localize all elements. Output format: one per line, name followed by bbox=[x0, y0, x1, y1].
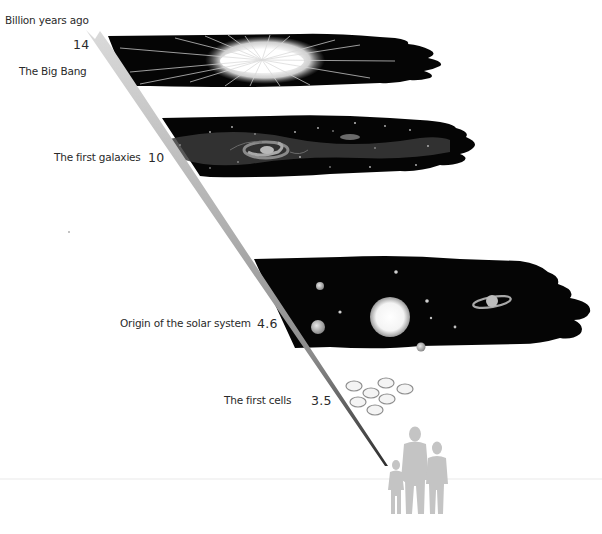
family-figures bbox=[388, 427, 448, 515]
event-label-first-galaxies: The first galaxies bbox=[54, 151, 141, 163]
cells-scene bbox=[346, 378, 413, 415]
timeline-illustration bbox=[0, 0, 602, 534]
event-value-solar-system: 4.6 bbox=[257, 316, 278, 331]
stray-dot bbox=[68, 231, 70, 233]
galaxies-scene bbox=[162, 115, 475, 177]
axis-title: Billion years ago bbox=[5, 14, 89, 26]
event-value-first-cells: 3.5 bbox=[311, 393, 332, 408]
event-label-solar-system: Origin of the solar system bbox=[120, 317, 251, 329]
event-label-big-bang: The Big Bang bbox=[19, 65, 87, 77]
event-label-first-cells: The first cells bbox=[224, 394, 291, 406]
event-value-first-galaxies: 10 bbox=[148, 150, 165, 165]
solar-system-scene bbox=[254, 256, 590, 352]
big-bang-scene bbox=[108, 34, 441, 87]
event-value-big-bang: 14 bbox=[73, 37, 90, 52]
